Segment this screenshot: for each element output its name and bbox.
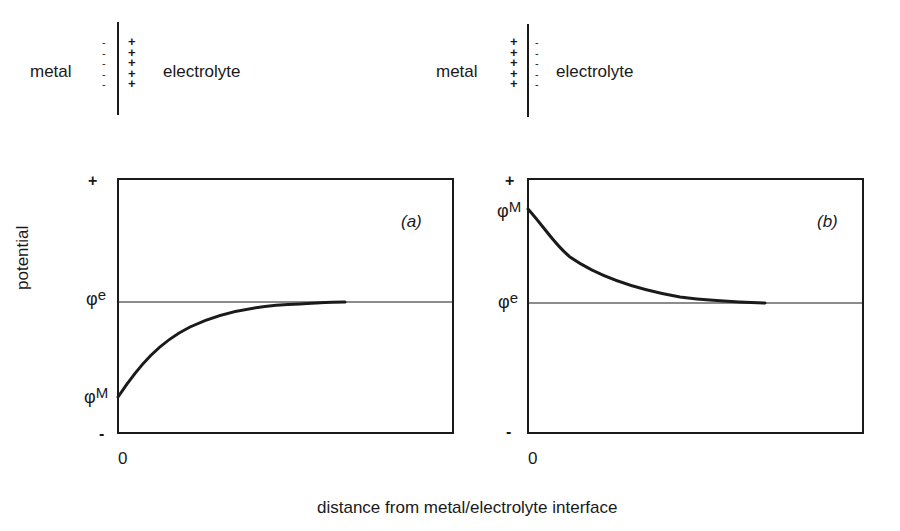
panel-a-plus-sign: + (88, 173, 97, 189)
panel-b-tag: (b) (817, 212, 838, 232)
panel-a-minus-sign: - (99, 426, 104, 442)
panel-b-phi-m-label: φM (497, 198, 521, 222)
panel-a-tag: (a) (401, 212, 422, 232)
panel-b-x-origin: 0 (528, 449, 537, 469)
panel-b-potential-curve (528, 209, 765, 303)
panel-b-graphics (528, 179, 863, 433)
panel-a-phi-m-label: φM (84, 384, 108, 408)
x-axis-title: distance from metal/electrolyte interfac… (317, 498, 617, 518)
panel-a-potential-curve (118, 302, 345, 397)
panel-b-phi-e-label: φe (498, 289, 518, 313)
panel-b-minus-sign: - (506, 424, 511, 440)
panel-b-frame (528, 179, 863, 433)
panel-a-phi-e-label: φe (86, 286, 106, 310)
panel-a-x-origin: 0 (118, 449, 127, 469)
plots-canvas (0, 0, 900, 531)
panel-b-plus-sign: + (505, 173, 514, 189)
y-axis-title: potential (13, 226, 33, 290)
